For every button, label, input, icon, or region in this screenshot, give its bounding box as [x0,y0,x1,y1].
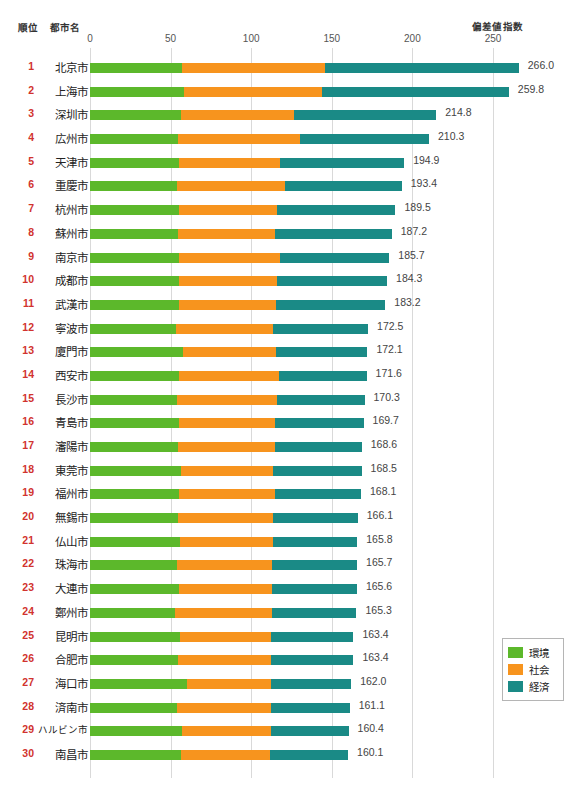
bar-segment-社会[interactable] [183,347,276,357]
bar-segment-社会[interactable] [179,584,272,594]
bar-segment-社会[interactable] [179,158,281,168]
bar-segment-社会[interactable] [178,229,275,239]
bar-segment-環境[interactable] [90,229,178,239]
stacked-bar[interactable] [90,489,361,499]
bar-segment-経済[interactable] [275,418,364,428]
bar-segment-経済[interactable] [285,181,402,191]
bar-segment-環境[interactable] [90,371,179,381]
bar-segment-経済[interactable] [275,489,361,499]
bar-segment-経済[interactable] [271,679,352,689]
bar-segment-社会[interactable] [182,63,325,73]
stacked-bar[interactable] [90,679,351,689]
stacked-bar[interactable] [90,584,357,594]
bar-segment-環境[interactable] [90,632,180,642]
bar-segment-社会[interactable] [179,418,274,428]
stacked-bar[interactable] [90,134,429,144]
bar-segment-社会[interactable] [182,726,271,736]
bar-segment-経済[interactable] [276,300,385,310]
bar-segment-経済[interactable] [273,466,362,476]
bar-segment-社会[interactable] [177,395,277,405]
stacked-bar[interactable] [90,726,349,736]
stacked-bar[interactable] [90,324,368,334]
stacked-bar[interactable] [90,253,389,263]
bar-segment-環境[interactable] [90,87,184,97]
stacked-bar[interactable] [90,655,353,665]
bar-segment-社会[interactable] [181,110,294,120]
bar-segment-経済[interactable] [322,87,509,97]
bar-segment-環境[interactable] [90,276,179,286]
stacked-bar[interactable] [90,466,362,476]
bar-segment-環境[interactable] [90,158,179,168]
stacked-bar[interactable] [90,347,367,357]
stacked-bar[interactable] [90,63,519,73]
bar-segment-経済[interactable] [270,750,348,760]
stacked-bar[interactable] [90,205,395,215]
bar-segment-環境[interactable] [90,324,176,334]
bar-segment-社会[interactable] [181,750,270,760]
bar-segment-環境[interactable] [90,560,177,570]
bar-segment-社会[interactable] [180,537,273,547]
bar-segment-経済[interactable] [279,371,367,381]
bar-segment-社会[interactable] [178,134,300,144]
bar-segment-経済[interactable] [277,205,395,215]
stacked-bar[interactable] [90,750,348,760]
bar-segment-環境[interactable] [90,584,179,594]
bar-segment-経済[interactable] [271,726,349,736]
bar-segment-環境[interactable] [90,63,182,73]
bar-segment-経済[interactable] [294,110,436,120]
stacked-bar[interactable] [90,513,358,523]
bar-segment-経済[interactable] [273,513,358,523]
bar-segment-経済[interactable] [277,276,387,286]
bar-segment-環境[interactable] [90,300,179,310]
stacked-bar[interactable] [90,703,350,713]
legend-item[interactable]: 経済 [508,678,559,695]
stacked-bar[interactable] [90,181,402,191]
bar-segment-環境[interactable] [90,110,181,120]
stacked-bar[interactable] [90,158,404,168]
stacked-bar[interactable] [90,632,353,642]
bar-segment-環境[interactable] [90,253,179,263]
bar-segment-経済[interactable] [325,63,518,73]
bar-segment-環境[interactable] [90,418,179,428]
bar-segment-社会[interactable] [181,466,273,476]
bar-segment-社会[interactable] [178,442,276,452]
bar-segment-社会[interactable] [187,679,271,689]
bar-segment-社会[interactable] [177,560,272,570]
stacked-bar[interactable] [90,110,436,120]
bar-segment-環境[interactable] [90,181,177,191]
stacked-bar[interactable] [90,418,364,428]
bar-segment-環境[interactable] [90,537,180,547]
bar-segment-経済[interactable] [300,134,429,144]
stacked-bar[interactable] [90,608,356,618]
bar-segment-経済[interactable] [275,229,392,239]
bar-segment-社会[interactable] [178,655,271,665]
bar-segment-社会[interactable] [179,276,277,286]
bar-segment-環境[interactable] [90,726,182,736]
bar-segment-社会[interactable] [179,205,277,215]
bar-segment-社会[interactable] [179,253,281,263]
stacked-bar[interactable] [90,276,387,286]
bar-segment-経済[interactable] [271,703,349,713]
bar-segment-環境[interactable] [90,608,175,618]
bar-segment-環境[interactable] [90,466,181,476]
bar-segment-経済[interactable] [276,347,367,357]
legend-item[interactable]: 社会 [508,661,559,678]
bar-segment-環境[interactable] [90,442,178,452]
bar-segment-経済[interactable] [280,253,389,263]
bar-segment-経済[interactable] [272,560,357,570]
bar-segment-経済[interactable] [277,395,365,405]
bar-segment-環境[interactable] [90,679,187,689]
bar-segment-環境[interactable] [90,513,178,523]
stacked-bar[interactable] [90,560,357,570]
bar-segment-環境[interactable] [90,205,179,215]
bar-segment-社会[interactable] [179,489,275,499]
bar-segment-環境[interactable] [90,750,181,760]
stacked-bar[interactable] [90,537,357,547]
legend-item[interactable]: 環境 [508,644,559,661]
bar-segment-環境[interactable] [90,489,179,499]
bar-segment-環境[interactable] [90,655,178,665]
stacked-bar[interactable] [90,300,385,310]
bar-segment-社会[interactable] [177,703,271,713]
bar-segment-経済[interactable] [273,324,368,334]
bar-segment-経済[interactable] [280,158,404,168]
